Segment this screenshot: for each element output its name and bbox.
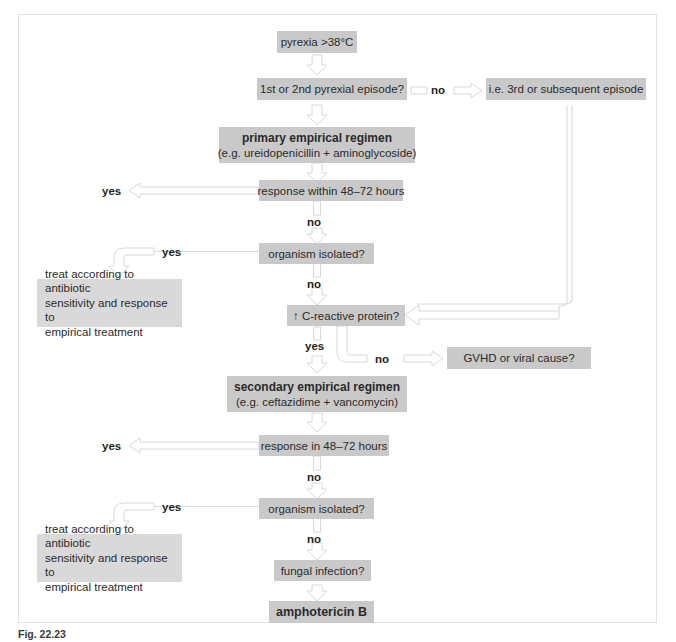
label-no-response-1: no (307, 216, 321, 228)
node-gvhd[interactable]: GVHD or viral cause? (447, 347, 591, 369)
label-yes-organism-1: yes (162, 246, 181, 258)
node-organism-2[interactable]: organism isolated? (259, 498, 374, 519)
stub-episode-no (411, 87, 427, 94)
stub-organism1-no (314, 263, 321, 277)
node-response-1[interactable]: response within 48–72 hours (259, 180, 403, 201)
figure-caption: Fig. 22.23 (18, 628, 66, 640)
node-treat-2-line1: treat according to antibiotic (45, 522, 174, 551)
node-crp[interactable]: ↑ C-reactive protein? (287, 305, 405, 326)
node-secondary-regimen-sub: (e.g. ceftazidime + vancomycin) (236, 395, 398, 409)
node-episode-question[interactable]: 1st or 2nd pyrexial episode? (257, 78, 407, 100)
arrow-crp-to-gvhd (404, 351, 443, 366)
label-no-organism-1: no (307, 278, 321, 290)
node-gvhd-label: GVHD or viral cause? (463, 351, 574, 365)
arrow-response2-yes (129, 438, 259, 453)
arrow-response1-yes (129, 183, 259, 198)
node-fungal-label: fungal infection? (281, 564, 365, 578)
label-yes-crp: yes (305, 340, 324, 352)
node-organism-1[interactable]: organism isolated? (259, 243, 374, 264)
arrow-organism2-to-fungal (307, 543, 327, 560)
node-pyrexia-label: pyrexia >38°C (281, 35, 354, 49)
label-yes-response-2: yes (102, 440, 121, 452)
node-secondary-regimen-title: secondary empirical regimen (234, 380, 400, 395)
label-yes-organism-2: yes (162, 501, 181, 513)
node-fungal[interactable]: fungal infection? (274, 560, 371, 581)
stub-organism2-no (314, 518, 321, 532)
arrow-episode-to-third (454, 83, 482, 98)
node-secondary-regimen[interactable]: secondary empirical regimen (e.g. ceftaz… (227, 376, 407, 412)
route-third-to-crp-3 (559, 301, 567, 312)
node-treat-2[interactable]: treat according to antibiotic sensitivit… (37, 534, 182, 582)
stub-crp-yes (314, 327, 321, 340)
figure-panel: pyrexia >38°C 1st or 2nd pyrexial episod… (18, 14, 657, 623)
node-primary-regimen[interactable]: primary empirical regimen (e.g. ureidope… (219, 127, 415, 163)
node-treat-1[interactable]: treat according to antibiotic sensitivit… (37, 279, 182, 327)
node-organism-1-label: organism isolated? (268, 247, 365, 261)
node-third-episode[interactable]: i.e. 3rd or subsequent episode (486, 78, 646, 100)
label-yes-response-1: yes (102, 185, 121, 197)
node-pyrexia[interactable]: pyrexia >38°C (277, 31, 357, 53)
node-response-2-label: response in 48–72 hours (261, 439, 388, 453)
arrow-into-crp (405, 305, 559, 325)
node-third-episode-label: i.e. 3rd or subsequent episode (489, 82, 644, 96)
node-episode-question-label: 1st or 2nd pyrexial episode? (260, 82, 404, 96)
label-no-crp: no (375, 353, 389, 365)
stub-response1-no (314, 201, 321, 215)
arrow-pyrexia-to-episode (307, 55, 327, 75)
node-treat-2-line2: sensitivity and response to (45, 551, 174, 580)
route-third-to-crp (417, 105, 572, 304)
stub-response2-no (314, 456, 321, 470)
arrow-secondary-to-response2 (307, 413, 327, 432)
label-no-episode: no (431, 84, 445, 96)
node-response-2[interactable]: response in 48–72 hours (259, 435, 389, 456)
arrow-response1-to-organism1 (307, 228, 327, 244)
arrow-response2-to-organism2 (307, 483, 327, 499)
node-organism-2-label: organism isolated? (268, 502, 365, 516)
label-no-response-2: no (307, 471, 321, 483)
arrow-organism1-to-crp (307, 288, 327, 305)
node-treat-1-line3: empirical treatment (45, 325, 143, 340)
node-amphotericin-label: amphotericin B (276, 605, 367, 619)
node-response-1-label: response within 48–72 hours (257, 184, 404, 198)
arrow-crp-to-secondary (307, 356, 327, 373)
node-treat-2-line3: empirical treatment (45, 580, 143, 595)
elbow-crp-no (337, 326, 367, 362)
node-treat-1-line2: sensitivity and response to (45, 296, 174, 325)
arrow-episode-to-primary (307, 105, 327, 125)
label-no-organism-2: no (307, 533, 321, 545)
node-primary-regimen-sub: (e.g. ureidopenicillin + aminoglycoside) (218, 146, 416, 160)
node-crp-label: ↑ C-reactive protein? (293, 309, 399, 323)
node-amphotericin[interactable]: amphotericin B (269, 601, 374, 623)
arrow-fungal-to-amphotericin (307, 585, 327, 601)
node-treat-1-line1: treat according to antibiotic (45, 267, 174, 296)
node-primary-regimen-title: primary empirical regimen (242, 131, 392, 146)
